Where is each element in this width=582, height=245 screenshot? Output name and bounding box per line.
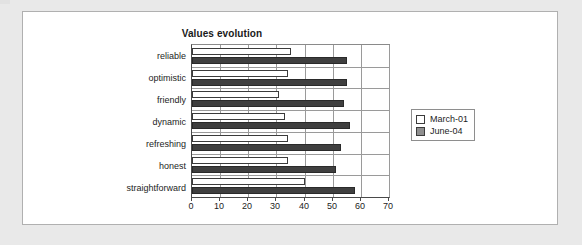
bar: [192, 144, 341, 151]
bar: [192, 57, 347, 64]
category-label-dynamic: dynamic: [152, 117, 186, 127]
value-axis-tick-mark: [360, 197, 361, 201]
legend-label-june: June-04: [430, 126, 463, 136]
category-label-straightforward: straightforward: [126, 183, 186, 193]
value-axis-tick-mark: [247, 197, 248, 201]
category-separator: [192, 110, 389, 111]
category-separator: [192, 132, 389, 133]
bar: [192, 157, 288, 164]
category-separator: [192, 88, 389, 89]
bar: [192, 187, 355, 194]
chart-title-text: Values evolution: [182, 28, 263, 39]
value-axis-tick-mark: [275, 197, 276, 201]
category-label-reliable: reliable: [157, 51, 186, 61]
bar: [192, 91, 279, 98]
category-label-optimistic: optimistic: [148, 73, 186, 83]
value-axis-tick-mark: [304, 197, 305, 201]
category-separator: [192, 67, 389, 68]
value-axis-tick-label: 0: [188, 201, 193, 211]
bar: [192, 100, 344, 107]
bar: [192, 70, 288, 77]
value-axis-tick-label: 30: [270, 201, 280, 211]
category-axis-labels: reliable optimistic friendly dynamic ref…: [43, 44, 186, 198]
bar: [192, 122, 350, 129]
chart-card: Values evolution reliable optimistic fri…: [22, 11, 558, 225]
legend-label-march: March-01: [430, 114, 468, 124]
value-axis-tick-mark: [219, 197, 220, 201]
legend-item-march: March-01: [416, 113, 468, 125]
gridline: [389, 45, 390, 197]
chart-title: Values evolution: [23, 28, 557, 39]
bar: [192, 48, 291, 55]
value-axis-tick-label: 10: [214, 201, 224, 211]
category-label-friendly: friendly: [157, 95, 186, 105]
value-axis-tick-label: 50: [327, 201, 337, 211]
gray-swatch-icon: [416, 127, 425, 136]
value-axis-tick-label: 40: [299, 201, 309, 211]
category-label-honest: honest: [159, 161, 186, 171]
bar: [192, 178, 305, 185]
chart-legend: March-01 June-04: [411, 109, 475, 141]
value-axis-tick-mark: [332, 197, 333, 201]
category-separator: [192, 154, 389, 155]
value-axis-tick-label: 20: [242, 201, 252, 211]
value-axis-tick-label: 60: [355, 201, 365, 211]
plot-area: [191, 44, 390, 198]
value-axis-tick-mark: [191, 197, 192, 201]
value-axis-tick-label: 70: [383, 201, 393, 211]
value-axis-labels: 010203040506070: [191, 201, 390, 215]
bar: [192, 113, 285, 120]
bar: [192, 166, 336, 173]
bar: [192, 79, 347, 86]
background-artifact: [0, 0, 10, 4]
value-axis-tick-mark: [388, 197, 389, 201]
bar: [192, 135, 288, 142]
category-separator: [192, 175, 389, 176]
white-swatch-icon: [416, 115, 425, 124]
legend-item-june: June-04: [416, 125, 468, 137]
category-label-refreshing: refreshing: [146, 139, 186, 149]
